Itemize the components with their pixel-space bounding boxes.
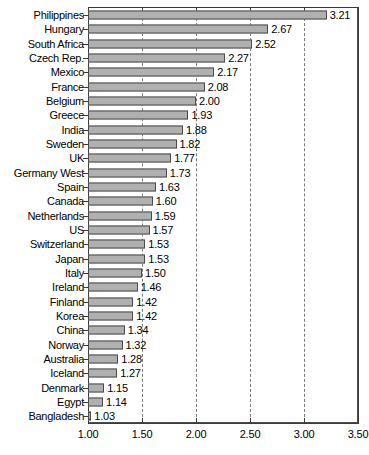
category-label: Sweden: [46, 138, 84, 149]
bar: [88, 139, 177, 148]
bar-row: France2.08: [0, 79, 369, 94]
bar: [88, 168, 167, 177]
category-label: Australia: [43, 353, 84, 364]
category-label: Canada: [47, 196, 84, 207]
bar: [88, 182, 156, 191]
bar: [88, 25, 268, 34]
category-label: Belgium: [46, 95, 84, 106]
bar-row: Norway1.32: [0, 337, 369, 352]
bar-value-label: 1.93: [191, 110, 212, 121]
bar-value-label: 2.52: [255, 38, 276, 49]
bar-row: Mexico2.17: [0, 65, 369, 80]
x-tick-label: 1.00: [78, 428, 99, 440]
category-label: US: [69, 224, 84, 235]
category-label: Mexico: [51, 67, 84, 78]
bar: [88, 354, 118, 363]
category-label: Spain: [57, 181, 84, 192]
bar: [88, 240, 145, 249]
bar-row: Belgium2.00: [0, 93, 369, 108]
category-label: South Africa: [28, 38, 84, 49]
bar-value-label: 2.27: [228, 52, 249, 63]
bar-value-label: 1.73: [170, 167, 191, 178]
x-tick-label: 2.00: [186, 428, 207, 440]
bar-value-label: 1.34: [128, 325, 149, 336]
bar: [88, 340, 123, 349]
category-label: China: [57, 325, 85, 336]
category-label: UK: [69, 153, 84, 164]
bar-value-label: 1.50: [145, 267, 166, 278]
bar-row: Philippines3.21: [0, 8, 369, 23]
bar: [88, 53, 225, 62]
bar-row: Ireland1.46: [0, 280, 369, 295]
bar-value-label: 2.00: [199, 95, 220, 106]
bar: [88, 125, 183, 134]
bar-value-label: 2.08: [208, 81, 229, 92]
category-label: Greece: [49, 110, 84, 121]
bar-value-label: 1.88: [186, 124, 207, 135]
x-tick-label: 3.50: [348, 428, 369, 440]
bar-row: Switzerland1.53: [0, 237, 369, 252]
bar-row: Italy1.50: [0, 265, 369, 280]
bar-value-label: 1.42: [136, 310, 157, 321]
bar-row: US1.57: [0, 222, 369, 237]
category-label: Japan: [55, 253, 84, 264]
bar: [88, 225, 150, 234]
bar-value-label: 1.53: [148, 253, 169, 264]
bar-value-label: 1.14: [106, 396, 127, 407]
bar-row: Spain1.63: [0, 179, 369, 194]
category-label: Netherlands: [27, 210, 84, 221]
bar-value-label: 1.60: [156, 196, 177, 207]
bar-chart: 1.001.502.002.503.003.50 Philippines3.21…: [0, 0, 369, 455]
bar-value-label: 1.28: [121, 353, 142, 364]
bar: [88, 10, 327, 19]
category-label: Bangladesh: [28, 411, 84, 422]
bar: [88, 326, 125, 335]
category-label: France: [51, 81, 84, 92]
bar-row: Iceland1.27: [0, 366, 369, 381]
bar-row: UK1.77: [0, 151, 369, 166]
x-tick-label: 1.50: [132, 428, 153, 440]
bar: [88, 297, 133, 306]
bar-value-label: 1.63: [159, 181, 180, 192]
bar-row: South Africa2.52: [0, 36, 369, 51]
category-label: Korea: [56, 310, 84, 321]
bar: [88, 111, 188, 120]
category-label: Switzerland: [30, 239, 84, 250]
bar: [88, 311, 133, 320]
bar: [88, 82, 205, 91]
bar: [88, 211, 152, 220]
bar-row: Netherlands1.59: [0, 208, 369, 223]
bar-row: Canada1.60: [0, 194, 369, 209]
bar-row: Korea1.42: [0, 308, 369, 323]
bar-value-label: 1.27: [120, 368, 141, 379]
bar-row: Bangladesh1.03: [0, 409, 369, 424]
bar-row: Germany West1.73: [0, 165, 369, 180]
bar: [88, 412, 91, 421]
bar-value-label: 1.59: [155, 210, 176, 221]
bar-value-label: 1.53: [148, 239, 169, 250]
bar-value-label: 3.21: [330, 9, 351, 20]
bar-value-label: 1.82: [180, 138, 201, 149]
category-label: Norway: [48, 339, 84, 350]
bar: [88, 397, 103, 406]
bar-value-label: 1.46: [141, 282, 162, 293]
category-label: Finland: [50, 296, 84, 307]
bar-row: Japan1.53: [0, 251, 369, 266]
bar-row: Greece1.93: [0, 108, 369, 123]
category-label: India: [61, 124, 84, 135]
bar-row: Czech Rep.2.27: [0, 50, 369, 65]
x-tick-label: 3.00: [294, 428, 315, 440]
bar: [88, 369, 117, 378]
bar-row: Egypt1.14: [0, 394, 369, 409]
category-label: Hungary: [44, 24, 84, 35]
bar: [88, 68, 214, 77]
bar-row: Finland1.42: [0, 294, 369, 309]
category-label: Ireland: [52, 282, 84, 293]
bar: [88, 96, 196, 105]
category-label: Germany West: [14, 167, 84, 178]
bar-row: China1.34: [0, 323, 369, 338]
bar-value-label: 2.17: [217, 67, 238, 78]
bar-value-label: 2.67: [271, 24, 292, 35]
category-label: Egypt: [57, 396, 84, 407]
bar-value-label: 1.57: [153, 224, 174, 235]
